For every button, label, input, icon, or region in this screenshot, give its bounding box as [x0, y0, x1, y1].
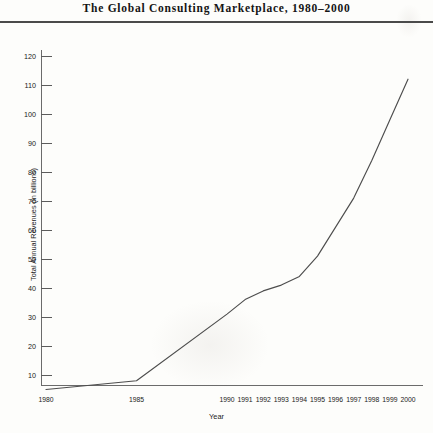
x-axis-tick-label: 1985: [129, 396, 144, 403]
title-divider: [0, 21, 433, 23]
x-axis-tick-label: 1997: [346, 396, 361, 403]
y-axis-tick: [41, 114, 52, 115]
data-series-layer: [0, 0, 433, 433]
y-axis-tick-label: 100: [2, 110, 36, 119]
x-axis-tick-label: 2000: [400, 396, 415, 403]
x-axis-tick-label: 1990: [219, 396, 234, 403]
y-axis-title-container: Total Annual Revenues (in billions): [6, 120, 20, 320]
y-axis-tick-label: 110: [2, 81, 36, 90]
y-axis-tick-label: 120: [2, 52, 36, 61]
y-axis-tick: [41, 85, 52, 86]
x-axis-tick-label: 1994: [292, 396, 307, 403]
y-axis-tick-label: 10: [2, 371, 36, 380]
y-axis-tick: [41, 259, 52, 260]
y-axis-tick: [41, 201, 52, 202]
x-axis-tick-label: 1993: [274, 396, 289, 403]
y-axis-tick: [41, 56, 52, 57]
chart-figure: The Global Consulting Marketplace, 1980–…: [0, 0, 433, 433]
page-smudge-2: [150, 300, 270, 390]
x-axis-tick-label: 1998: [364, 396, 379, 403]
y-axis-tick: [41, 172, 52, 173]
x-axis-line: [41, 385, 423, 386]
x-axis-tick-label: 1991: [238, 396, 253, 403]
x-axis-tick-label: 1992: [256, 396, 271, 403]
y-axis-tick: [41, 230, 52, 231]
x-axis-title: Year: [0, 412, 433, 421]
y-axis-line: [41, 50, 42, 386]
y-axis-tick: [41, 317, 52, 318]
y-axis-tick: [41, 375, 52, 376]
chart-title: The Global Consulting Marketplace, 1980–…: [0, 2, 433, 14]
revenue-line-series: [46, 79, 408, 389]
x-axis-tick-label: 1996: [328, 396, 343, 403]
x-axis-tick-label: 1995: [310, 396, 325, 403]
x-axis-tick-label: 1980: [38, 396, 53, 403]
y-axis-tick-label: 20: [2, 342, 36, 351]
y-axis-tick: [41, 143, 52, 144]
x-axis-tick-label: 1999: [382, 396, 397, 403]
y-axis-tick: [41, 346, 52, 347]
y-axis-tick: [41, 288, 52, 289]
y-axis-title: Total Annual Revenues (in billions): [29, 150, 38, 300]
